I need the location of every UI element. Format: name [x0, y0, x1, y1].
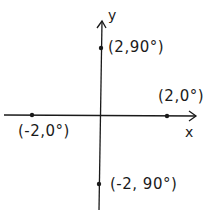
y-axis-label: y: [108, 8, 116, 22]
point-neg2-0: [30, 113, 34, 117]
point-2-0: [165, 114, 169, 118]
point-2-90: [99, 46, 103, 50]
point-label-neg2-90: (-2, 90°): [110, 177, 177, 192]
point-label-2-0: (2,0°): [158, 89, 204, 104]
point-neg2-90: [97, 182, 101, 186]
point-label-neg2-0: (-2,0°): [18, 124, 70, 139]
axes-drawing: [0, 0, 215, 223]
point-label-2-90: (2,90°): [108, 40, 164, 55]
polar-points-diagram: y x (2,90°) (2,0°) (-2,0°) (-2, 90°): [0, 0, 215, 223]
x-axis-label: x: [185, 125, 193, 139]
